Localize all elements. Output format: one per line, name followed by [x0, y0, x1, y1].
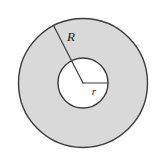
- annulus-figure: R r: [0, 0, 158, 160]
- annulus-svg-canvas: R r: [0, 0, 158, 160]
- inner-radius-label: r: [92, 85, 97, 97]
- outer-radius-label: R: [66, 29, 75, 44]
